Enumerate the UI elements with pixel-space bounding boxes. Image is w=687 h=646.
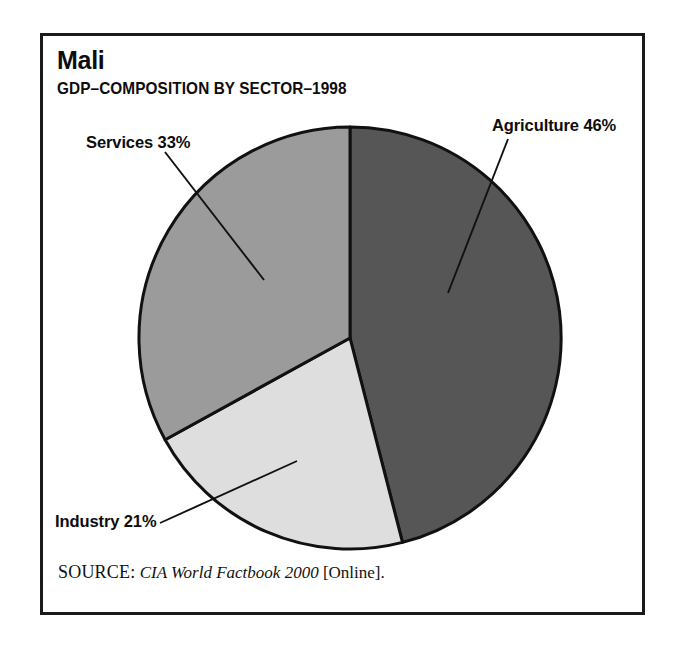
slice-label-agriculture: Agriculture 46% bbox=[492, 116, 616, 135]
source-medium: [Online]. bbox=[323, 563, 385, 582]
slice-label-industry: Industry 21% bbox=[55, 512, 157, 531]
source-label: SOURCE: bbox=[58, 562, 135, 582]
source-note: SOURCE: CIA World Factbook 2000 [Online]… bbox=[58, 562, 598, 583]
figure-page: Mali GDP–COMPOSITION BY SECTOR–1998 Agri… bbox=[0, 0, 687, 646]
chart-subtitle: GDP–COMPOSITION BY SECTOR–1998 bbox=[57, 78, 448, 98]
heading-block: Mali GDP–COMPOSITION BY SECTOR–1998 bbox=[57, 46, 477, 98]
page-title: Mali bbox=[57, 46, 477, 74]
source-work-title: CIA World Factbook 2000 bbox=[140, 563, 319, 582]
slice-label-services: Services 33% bbox=[86, 133, 190, 152]
